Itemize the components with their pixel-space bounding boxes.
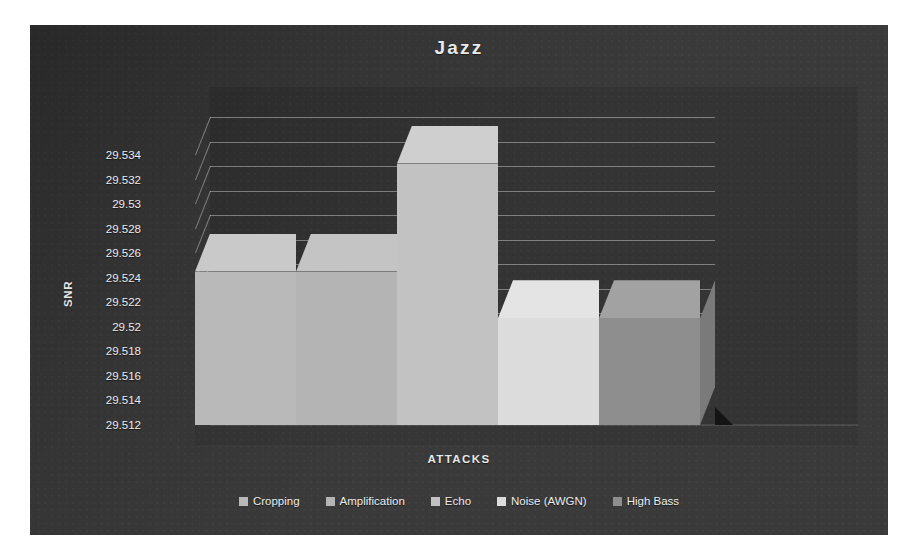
gridline-depth-0: [195, 117, 211, 155]
legend-label: Amplification: [340, 495, 405, 507]
y-axis-title: SNR: [62, 264, 74, 324]
legend-swatch-icon: [239, 497, 248, 506]
legend-label: Noise (AWGN): [511, 495, 587, 507]
legend-swatch-icon: [431, 497, 440, 506]
gridline-0: [210, 117, 715, 118]
bar-front-face: [599, 318, 700, 425]
y-tick-label-9: 29.516: [55, 370, 141, 382]
y-tick-label-10: 29.514: [55, 394, 141, 406]
legend-item-high-bass[interactable]: High Bass: [613, 495, 679, 507]
axis-base-wedge-right: [715, 407, 733, 425]
legend-item-amplification[interactable]: Amplification: [326, 495, 405, 507]
legend-swatch-icon: [497, 497, 506, 506]
legend-item-echo[interactable]: Echo: [431, 495, 471, 507]
bar-amplification[interactable]: [296, 272, 397, 425]
y-tick-label-3: 29.528: [55, 223, 141, 235]
x-axis-title: ATTACKS: [30, 453, 888, 465]
bar-front-face: [195, 272, 296, 425]
y-tick-label-1: 29.532: [55, 174, 141, 186]
bar-high-bass[interactable]: [599, 318, 700, 425]
bar-echo[interactable]: [397, 164, 498, 425]
bar-top-face: [397, 126, 498, 164]
legend-swatch-icon: [613, 497, 622, 506]
bar-front-face: [498, 318, 599, 425]
bar-noise-awgn[interactable]: [498, 318, 599, 425]
bar-front-face: [397, 164, 498, 425]
legend-label: High Bass: [627, 495, 679, 507]
bar-top-face: [195, 234, 296, 272]
y-tick-label-11: 29.512: [55, 419, 141, 431]
screenshot-root: Jazz 29.53429.53229.5329.52829.52629.524…: [0, 0, 918, 557]
bar-front-face: [296, 272, 397, 425]
y-tick-label-0: 29.534: [55, 149, 141, 161]
legend-item-noise-awgn[interactable]: Noise (AWGN): [497, 495, 587, 507]
chart-container: Jazz 29.53429.53229.5329.52829.52629.524…: [30, 25, 888, 535]
y-tick-label-2: 29.53: [55, 198, 141, 210]
legend-label: Cropping: [253, 495, 300, 507]
legend-swatch-icon: [326, 497, 335, 506]
bar-top-face: [498, 280, 599, 318]
y-tick-label-4: 29.526: [55, 247, 141, 259]
bar-top-face: [599, 280, 700, 318]
chart-legend: CroppingAmplificationEchoNoise (AWGN)Hig…: [30, 495, 888, 507]
bar-top-face: [296, 234, 397, 272]
legend-item-cropping[interactable]: Cropping: [239, 495, 300, 507]
chart-floor: [195, 425, 858, 445]
legend-label: Echo: [445, 495, 471, 507]
bar-cropping[interactable]: [195, 272, 296, 425]
y-tick-label-8: 29.518: [55, 345, 141, 357]
